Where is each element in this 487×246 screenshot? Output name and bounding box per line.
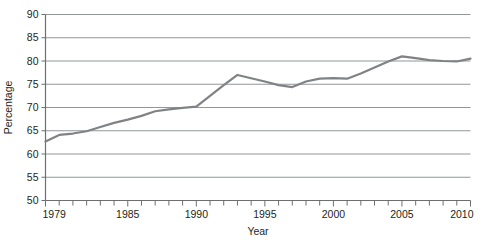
x-tick-label-1995: 1995 xyxy=(253,208,277,220)
y-tick-label-65: 65 xyxy=(27,124,39,136)
y-tick-label-75: 75 xyxy=(27,78,39,90)
y-tick-label-80: 80 xyxy=(27,55,39,67)
y-tick-label-90: 90 xyxy=(27,8,39,20)
y-tick-label-70: 70 xyxy=(27,101,39,113)
x-tick-label-2010: 2010 xyxy=(450,208,474,220)
y-axis-tick-labels: 505560657075808590 xyxy=(27,8,39,206)
x-axis-ticks xyxy=(46,201,471,207)
y-tick-label-50: 50 xyxy=(27,194,39,206)
y-tick-label-55: 55 xyxy=(27,171,39,183)
y-tick-label-60: 60 xyxy=(27,148,39,160)
x-axis-tick-labels: 1979198519901995200020052010 xyxy=(43,208,474,220)
x-axis-title: Year xyxy=(247,225,269,237)
x-tick-label-1990: 1990 xyxy=(185,208,209,220)
x-tick-label-2005: 2005 xyxy=(390,208,414,220)
line-chart: 505560657075808590 197919851990199520002… xyxy=(0,0,487,246)
chart-canvas: 505560657075808590 197919851990199520002… xyxy=(0,0,487,246)
data-series-group xyxy=(46,56,471,141)
data-line-percentage xyxy=(46,56,471,141)
y-tick-label-85: 85 xyxy=(27,31,39,43)
gridlines xyxy=(46,15,471,178)
x-tick-label-1985: 1985 xyxy=(116,208,140,220)
x-tick-label-2000: 2000 xyxy=(322,208,346,220)
x-tick-label-1979: 1979 xyxy=(43,208,67,220)
y-axis-title: Percentage xyxy=(2,80,14,134)
